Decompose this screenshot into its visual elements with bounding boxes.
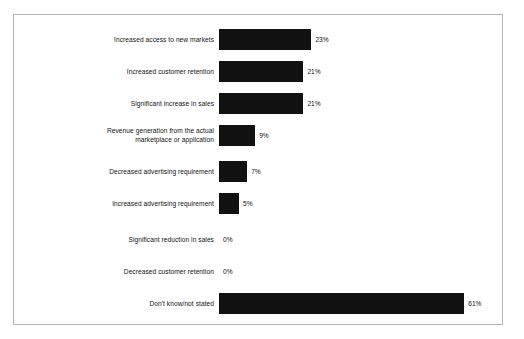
bar-category-label-line: Increased customer retention <box>127 68 214 77</box>
bar-value-label: 61% <box>468 293 481 314</box>
bar-row: Decreased advertising requirement7% <box>14 161 504 183</box>
bar-row: Increased customer retention21% <box>14 61 504 83</box>
bar-category-label: Revenue generation from the actualmarket… <box>14 125 214 147</box>
bar-row: Revenue generation from the actualmarket… <box>14 125 504 147</box>
bar-row: Increased advertising requirement5% <box>14 193 504 215</box>
bar-category-label: Significant reduction in sales <box>14 229 214 251</box>
bar-value-label: 21% <box>307 61 320 82</box>
bar-value-label: 0% <box>223 261 233 282</box>
bar-category-label-line: Increased advertising requirement <box>112 200 214 209</box>
bar-row: Increased access to new markets23% <box>14 29 504 51</box>
bar-category-label-line: Decreased advertising requirement <box>109 168 214 177</box>
bar-row: Significant reduction in sales0% <box>14 229 504 251</box>
bar-category-label: Decreased advertising requirement <box>14 161 214 183</box>
bar-value-label: 21% <box>307 93 320 114</box>
bar-category-label: Increased access to new markets <box>14 29 214 51</box>
bar-category-label-line: marketplace or application <box>135 136 214 145</box>
bar-value-label: 23% <box>315 29 328 50</box>
bar-row: Decreased customer retention0% <box>14 261 504 283</box>
bar-value-label: 0% <box>223 229 233 250</box>
bar <box>219 61 303 82</box>
bar-category-label: Decreased customer retention <box>14 261 214 283</box>
bar-value-label: 7% <box>251 161 261 182</box>
bar-category-label-line: Don't know/not stated <box>149 300 214 309</box>
bar-category-label-line: Increased access to new markets <box>114 36 214 45</box>
bar-category-label-line: Revenue generation from the actual <box>107 127 214 136</box>
bar-row: Significant increase in sales21% <box>14 93 504 115</box>
bar-value-label: 9% <box>259 125 269 146</box>
bar-category-label: Increased advertising requirement <box>14 193 214 215</box>
bar <box>219 293 464 314</box>
bar <box>219 161 247 182</box>
bar-category-label-line: Decreased customer retention <box>124 268 214 277</box>
bar-category-label-line: Significant reduction in sales <box>128 236 214 245</box>
bar-row: Don't know/not stated61% <box>14 293 504 315</box>
bar <box>219 29 311 50</box>
bar <box>219 125 255 146</box>
bar-value-label: 5% <box>243 193 253 214</box>
bar <box>219 93 303 114</box>
bar-category-label: Increased customer retention <box>14 61 214 83</box>
chart-frame: Increased access to new markets23%Increa… <box>13 14 503 325</box>
bar-chart-plot-area: Increased access to new markets23%Increa… <box>14 15 504 326</box>
bar-category-label: Significant increase in sales <box>14 93 214 115</box>
bar <box>219 193 239 214</box>
bar-category-label: Don't know/not stated <box>14 293 214 315</box>
bar-category-label-line: Significant increase in sales <box>131 100 214 109</box>
chart-figure: Increased access to new markets23%Increa… <box>0 0 524 339</box>
